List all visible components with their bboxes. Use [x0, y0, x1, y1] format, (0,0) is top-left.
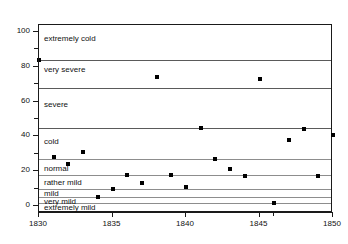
- y-axis-tick: [33, 170, 38, 171]
- x-axis-label: 1835: [92, 219, 132, 228]
- y-axis-tick: [33, 205, 38, 206]
- y-axis-tick: [33, 66, 38, 67]
- data-point: [125, 173, 129, 177]
- y-axis-tick: [33, 101, 38, 102]
- data-point: [169, 173, 173, 177]
- y-axis-tick: [33, 31, 38, 32]
- x-axis-label: 1840: [165, 219, 205, 228]
- data-point: [155, 75, 159, 79]
- band-gridline: [39, 189, 331, 190]
- data-point: [111, 187, 115, 191]
- y-axis-label: 60: [4, 97, 30, 105]
- band-label: rather mild: [44, 178, 82, 187]
- band-gridline: [39, 197, 331, 198]
- x-axis-label: 1845: [239, 219, 279, 228]
- y-axis-label: 0: [4, 201, 30, 209]
- x-axis-label: 1830: [18, 219, 58, 228]
- y-axis-label: 40: [4, 131, 30, 139]
- data-point: [302, 127, 306, 131]
- x-axis-tick: [185, 212, 186, 217]
- band-gridline: [39, 175, 331, 176]
- x-axis-tick: [38, 212, 39, 217]
- y-axis-minor-tick: [34, 83, 38, 84]
- band-label: severe: [44, 100, 68, 109]
- x-axis-label: 1850: [312, 219, 348, 228]
- y-axis-line: [38, 24, 39, 212]
- x-axis-tick: [112, 212, 113, 217]
- x-axis-tick: [259, 212, 260, 217]
- data-point: [199, 126, 203, 130]
- band-label: normal: [44, 164, 68, 173]
- data-point: [52, 155, 56, 159]
- plot-area: extremely coldvery severeseverecoldnorma…: [38, 24, 332, 212]
- y-axis-minor-tick: [34, 48, 38, 49]
- data-point: [287, 138, 291, 142]
- y-axis-label: 100: [4, 27, 30, 35]
- y-axis-minor-tick: [34, 118, 38, 119]
- data-point: [96, 195, 100, 199]
- data-point: [228, 167, 232, 171]
- x-axis-tick: [332, 212, 333, 217]
- band-gridline: [39, 88, 331, 89]
- band-gridline: [39, 128, 331, 129]
- band-label: extremely mild: [44, 203, 96, 212]
- band-label: very severe: [44, 65, 85, 74]
- y-axis-minor-tick: [34, 153, 38, 154]
- y-axis-label: 20: [4, 166, 30, 174]
- data-point: [272, 201, 276, 205]
- data-point: [213, 157, 217, 161]
- data-point: [140, 181, 144, 185]
- y-axis-tick: [33, 135, 38, 136]
- data-point: [184, 185, 188, 189]
- band-label: extremely cold: [44, 34, 96, 43]
- band-label: cold: [44, 137, 59, 146]
- band-gridline: [39, 159, 331, 160]
- data-point: [331, 133, 335, 137]
- temperature-severity-scatter-chart: extremely coldvery severeseverecoldnorma…: [0, 0, 348, 244]
- data-point: [66, 162, 70, 166]
- y-axis-label: 80: [4, 62, 30, 70]
- data-point: [316, 174, 320, 178]
- y-axis-minor-tick: [34, 188, 38, 189]
- x-axis-minor-tick: [273, 212, 274, 216]
- band-gridline: [39, 60, 331, 61]
- data-point: [81, 150, 85, 154]
- data-point: [243, 174, 247, 178]
- data-point: [258, 77, 262, 81]
